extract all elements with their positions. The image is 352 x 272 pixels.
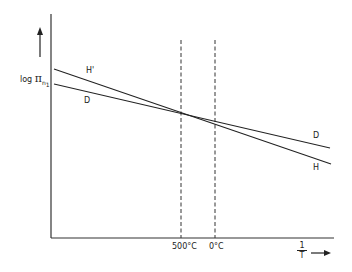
y-axis-label: log πn1 bbox=[20, 73, 50, 88]
label-h-right: H bbox=[313, 164, 319, 172]
marker-500c-label: 500°C bbox=[172, 243, 197, 251]
y-label-subsubscript: 1 bbox=[46, 81, 50, 88]
label-h-prime: H' bbox=[86, 67, 94, 75]
y-label-symbol: π bbox=[35, 72, 42, 85]
right-arrow-icon bbox=[311, 250, 331, 256]
y-label-log: log bbox=[20, 75, 32, 84]
line-d bbox=[54, 84, 330, 148]
up-arrow-icon bbox=[37, 27, 43, 57]
label-d-left: D bbox=[84, 97, 90, 105]
marker-0c-label: 0°C bbox=[209, 243, 224, 251]
x-label-denominator: T bbox=[297, 251, 307, 261]
x-axis-label: 1 T bbox=[297, 241, 307, 261]
label-d-right: D bbox=[313, 132, 319, 140]
x-label-numerator: 1 bbox=[297, 241, 307, 251]
diagram-canvas bbox=[0, 0, 352, 272]
